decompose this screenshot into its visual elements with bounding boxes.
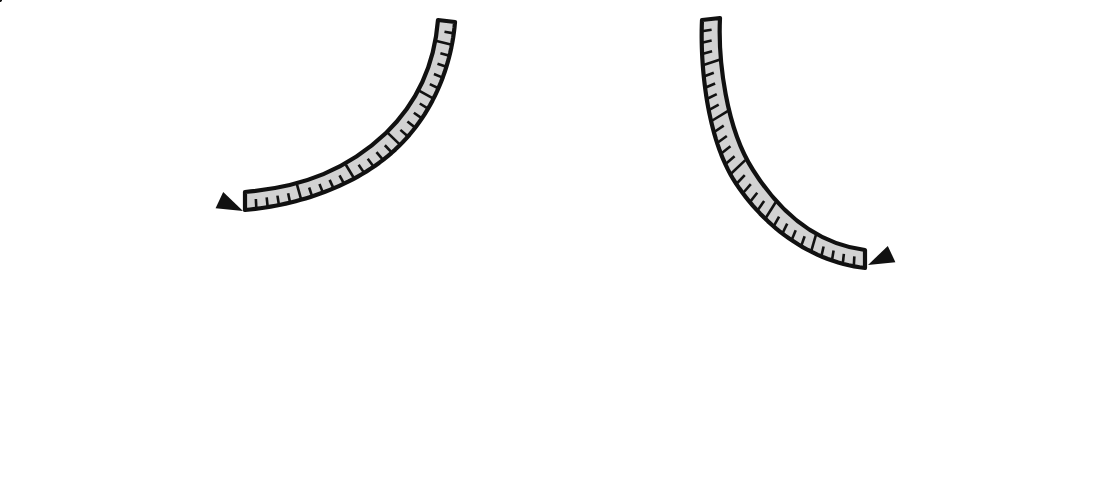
tape-tick xyxy=(444,32,453,34)
tape-tick xyxy=(702,30,712,32)
tape-tick xyxy=(256,199,257,209)
figure-back-bodice: exact neckline measurement shoulder c.b. xyxy=(0,0,455,211)
tape-tick xyxy=(277,196,279,205)
neckline-measurement-diagram: exact neckline measurement shoulder c.b. xyxy=(0,0,1094,503)
tape-band-shape-left xyxy=(245,20,455,210)
tape-tick xyxy=(854,256,855,266)
callout-arrow-head-right xyxy=(868,246,895,265)
callout-pointer-left xyxy=(0,0,243,211)
measuring-tape-left xyxy=(245,20,455,210)
callout-arrow-head-left xyxy=(216,192,243,211)
center-front-label: c.f. xyxy=(0,0,35,5)
measuring-tape-right xyxy=(702,18,865,268)
tape-tick-marks-left xyxy=(256,32,454,209)
tape-tick xyxy=(267,197,268,207)
diagram-canvas: exact neckline measurement shoulder c.b. xyxy=(0,0,1094,503)
tape-tick xyxy=(843,254,844,264)
tape-tick xyxy=(832,251,834,261)
